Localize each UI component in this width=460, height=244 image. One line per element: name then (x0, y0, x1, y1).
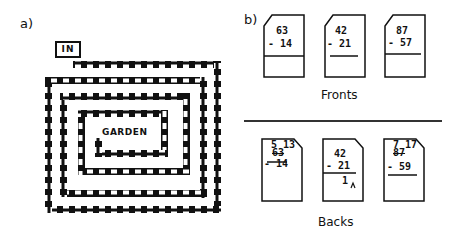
section-divider (244, 120, 442, 122)
card-bottom-number: - 14 (268, 38, 292, 49)
card-bottom-number: - 21 (326, 160, 350, 171)
front-card-1: 63 - 14 (263, 14, 305, 72)
spiral-maze (0, 0, 230, 244)
card-top-number: 87 (393, 147, 405, 158)
garden-goal-label: GARDEN (102, 127, 147, 137)
card-top-number: 63 (276, 25, 288, 36)
fronts-caption: Fronts (321, 88, 358, 102)
back-card-1: 5 13 63 - 14 (261, 138, 303, 196)
card-bottom-number: - 59 (387, 161, 411, 172)
card-bottom-number: - 21 (327, 38, 351, 49)
card-bottom-number: - 14 (264, 158, 288, 169)
back-card-3: 7 17 87 - 59 (383, 138, 425, 196)
backs-caption: Backs (318, 215, 353, 229)
card-top-number: 63 (272, 147, 284, 158)
card-top-number: 42 (334, 148, 346, 159)
front-card-3: 87 - 57 (384, 14, 426, 72)
panel-b-label: b) (244, 12, 257, 27)
card-bottom-number: - 57 (388, 37, 412, 48)
card-top-number: 87 (396, 25, 408, 36)
card-top-number: 42 (335, 25, 347, 36)
front-card-2: 42 - 21 (324, 14, 366, 72)
back-card-2: 42 - 21 1 (322, 138, 364, 196)
card-answer: 1 (342, 175, 348, 186)
